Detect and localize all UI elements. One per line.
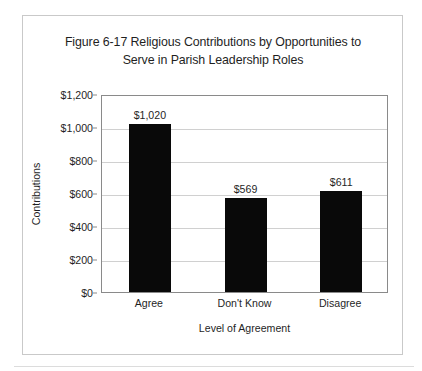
y-axis-tick-mark [93, 161, 97, 162]
y-axis-tick-label: $400 [69, 221, 93, 233]
y-axis-tick-label: $600 [69, 188, 93, 200]
x-axis-tick-label: Disagree [319, 297, 361, 309]
bar-value-label: $569 [206, 183, 286, 195]
y-axis-tick-mark [93, 194, 97, 195]
bar [320, 191, 362, 292]
y-axis-tick-label: $800 [69, 155, 93, 167]
y-axis-tick-labels: $0$200$400$600$800$1,000$1,200 [44, 95, 97, 293]
y-axis-tick-label: $200 [69, 254, 93, 266]
x-axis-title: Level of Agreement [101, 322, 388, 334]
bars-layer: $1,020$569$611 [102, 96, 387, 292]
y-axis-tick-mark [93, 260, 97, 261]
y-axis-title: Contributions [30, 163, 42, 225]
x-axis-tick-label: Don't Know [218, 297, 272, 309]
chart-title-line-1: Figure 6-17 Religious Contributions by O… [55, 33, 371, 51]
x-axis-tick-label: Agree [135, 297, 163, 309]
y-axis-tick-mark [93, 95, 97, 96]
y-axis-tick-label: $0 [81, 287, 93, 299]
y-axis-tick-mark [93, 128, 97, 129]
y-axis-tick-label: $1,000 [61, 122, 93, 134]
chart-title: Figure 6-17 Religious Contributions by O… [55, 33, 371, 69]
x-axis-tick-labels: AgreeDon't KnowDisagree [101, 297, 388, 313]
bar [129, 124, 171, 292]
page-rule-divider [14, 366, 414, 367]
chart-title-line-2: Serve in Parish Leadership Roles [55, 51, 371, 69]
bar-value-label: $1,020 [110, 109, 190, 121]
y-axis-tick-mark [93, 293, 97, 294]
y-axis-tick-mark [93, 227, 97, 228]
plot-area: $1,020$569$611 [101, 95, 388, 293]
y-axis-tick-label: $1,200 [61, 89, 93, 101]
bar [225, 198, 267, 292]
bar-value-label: $611 [301, 176, 381, 188]
